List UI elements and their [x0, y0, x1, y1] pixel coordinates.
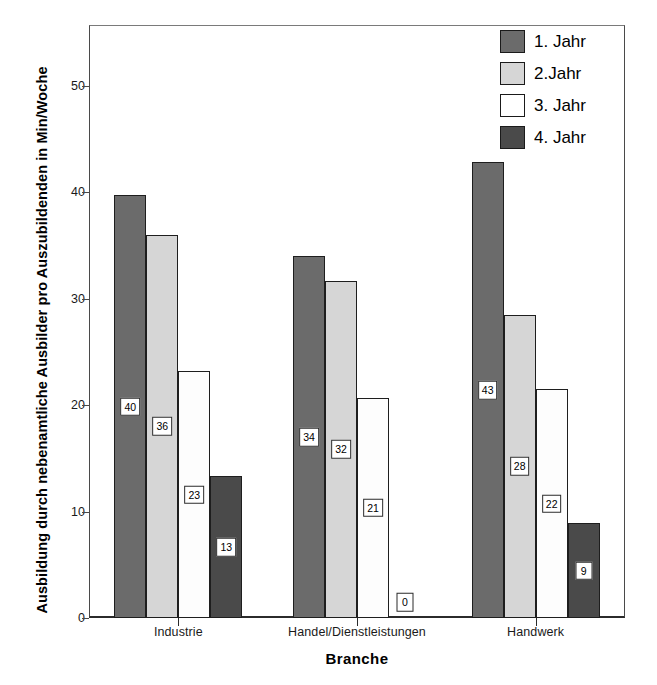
y-axis-tick-label: 20: [51, 398, 85, 412]
y-axis-tick-label: 0: [51, 611, 85, 625]
y-axis-tick-mark: [82, 192, 89, 193]
bar-value-label: 0: [397, 593, 414, 612]
bar-value-label: 40: [120, 397, 140, 416]
legend-label: 4. Jahr: [534, 128, 586, 148]
legend-label: 2.Jahr: [534, 64, 581, 84]
bar-value-label: 34: [299, 428, 319, 447]
bar-value-label: 22: [542, 494, 562, 513]
y-axis-tick-mark: [82, 299, 89, 300]
bar-value-label: 21: [363, 499, 383, 518]
legend-item[interactable]: 2.Jahr: [500, 60, 586, 87]
bar-chart-figure: Ausbildung durch nebenamtliche Ausbilder…: [0, 0, 657, 685]
y-axis-tick-label: 50: [51, 79, 85, 93]
legend-swatch-icon: [500, 126, 525, 149]
y-axis-tick-mark: [82, 618, 89, 619]
y-axis-title: Ausbildung durch nebenamtliche Ausbilder…: [22, 40, 64, 640]
legend-label: 1. Jahr: [534, 32, 586, 52]
bar-value-label: 36: [152, 417, 172, 436]
bar-value-label: 9: [575, 561, 592, 580]
y-axis-tick-mark: [82, 405, 89, 406]
legend-item[interactable]: 4. Jahr: [500, 124, 586, 151]
legend-swatch-icon: [500, 94, 525, 117]
y-axis-tick-label: 10: [51, 505, 85, 519]
legend-item[interactable]: 3. Jahr: [500, 92, 586, 119]
y-axis-tick-mark: [82, 512, 89, 513]
legend-swatch-icon: [500, 30, 525, 53]
y-axis-tick-mark: [82, 86, 89, 87]
y-axis-tick-label: 40: [51, 185, 85, 199]
legend-swatch-icon: [500, 62, 525, 85]
x-axis-tick-label: Handwerk: [426, 625, 646, 639]
legend-item[interactable]: 1. Jahr: [500, 28, 586, 55]
bar-value-label: 13: [216, 538, 236, 557]
legend-label: 3. Jahr: [534, 96, 586, 116]
bar-value-label: 43: [478, 381, 498, 400]
bar-value-label: 32: [331, 440, 351, 459]
x-axis-title: Branche: [89, 650, 625, 667]
chart-legend: 1. Jahr2.Jahr3. Jahr4. Jahr: [500, 28, 586, 151]
y-axis-tick-label: 30: [51, 292, 85, 306]
bar-value-label: 23: [184, 485, 204, 504]
bar-value-label: 28: [510, 457, 530, 476]
